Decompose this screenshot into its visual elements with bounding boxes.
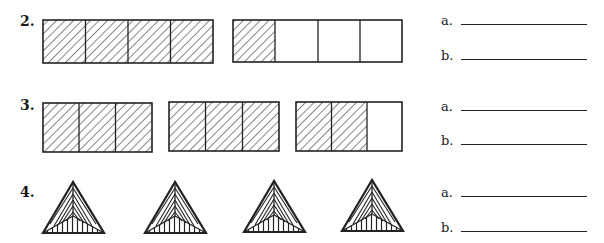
answer-blank[interactable]: [461, 23, 587, 25]
answer-label: b.: [441, 133, 461, 148]
answer-4a[interactable]: a.: [441, 185, 587, 200]
rectangle-figure-2a: [43, 20, 213, 63]
answer-label: a.: [441, 185, 461, 200]
answer-2b[interactable]: b.: [441, 48, 587, 63]
answer-3a[interactable]: a.: [441, 99, 587, 114]
answer-label: a.: [441, 99, 461, 114]
rectangle-figure-3c: [296, 102, 402, 151]
answer-blank[interactable]: [461, 109, 587, 111]
answer-2a[interactable]: a.: [441, 13, 587, 28]
answer-blank[interactable]: [461, 143, 587, 145]
triangle-figure-4d: [342, 180, 403, 231]
rectangle-figure-3b: [169, 102, 279, 151]
rectangle-figure-3a: [43, 103, 152, 152]
triangle-figure-4a: [43, 182, 104, 233]
answer-blank[interactable]: [461, 230, 587, 232]
rectangle-figure-2b: [233, 20, 402, 62]
answer-blank[interactable]: [461, 58, 587, 60]
answer-blank[interactable]: [461, 195, 587, 197]
fraction-figures: [0, 0, 604, 243]
answer-label: a.: [441, 13, 461, 28]
answer-label: b.: [441, 220, 461, 235]
triangle-figure-4c: [244, 181, 305, 232]
answer-label: b.: [441, 48, 461, 63]
answer-3b[interactable]: b.: [441, 133, 587, 148]
triangle-figure-4b: [145, 182, 206, 233]
answer-4b[interactable]: b.: [441, 220, 587, 235]
